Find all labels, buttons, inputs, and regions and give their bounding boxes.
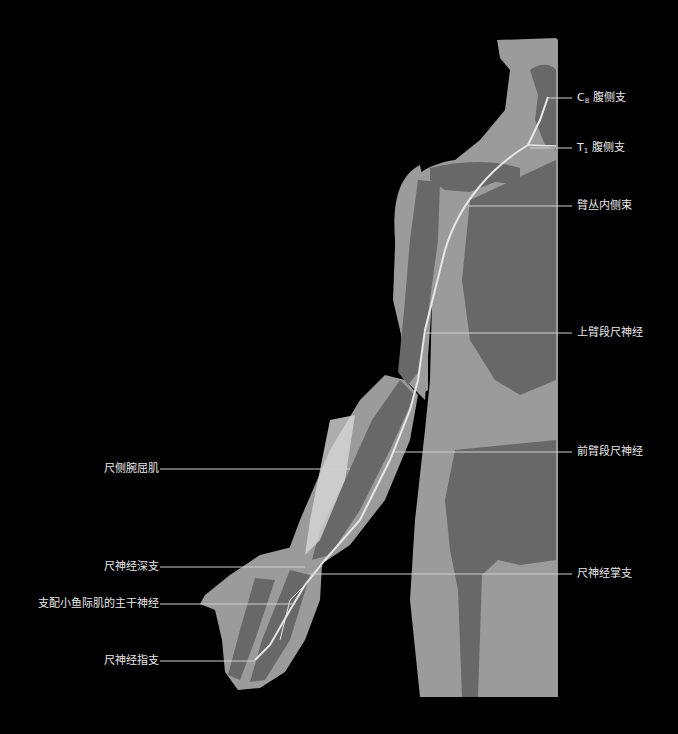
- label-deep-branch: 尺神经深支: [104, 560, 159, 574]
- label-flexor-carpi-ulnaris: 尺侧腕屈肌: [104, 462, 159, 476]
- label-t1-ventral-ramus: T1 腹侧支: [577, 141, 625, 158]
- label-forearm-ulnar-nerve: 前臂段尺神经: [577, 445, 643, 459]
- label-prefix: T: [577, 141, 584, 154]
- label-c8-ventral-ramus: C8 腹侧支: [577, 91, 626, 108]
- label-upper-arm-ulnar-nerve: 上臂段尺神经: [577, 326, 643, 340]
- label-prefix: C: [577, 91, 585, 104]
- label-hypothenar-main-trunk: 支配小鱼际肌的主干神经: [38, 597, 159, 611]
- label-text: 腹侧支: [589, 91, 626, 104]
- label-digital-branch: 尺神经指支: [104, 654, 159, 668]
- anatomy-figure: [0, 0, 678, 734]
- label-medial-cord: 臂丛内侧束: [577, 199, 632, 213]
- label-text: 腹侧支: [588, 141, 625, 154]
- label-palmar-branch: 尺神经掌支: [577, 567, 632, 581]
